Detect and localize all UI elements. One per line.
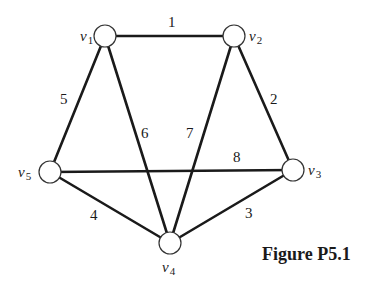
node-v1 [94,25,116,47]
node-v3 [282,159,304,181]
node-label-v5: v5 [18,164,32,182]
edge-weight-label: 4 [90,207,98,223]
edge-weight-label: 3 [245,205,253,221]
edge-weight-label: 1 [168,14,176,30]
edge-weight-label: 6 [141,125,149,141]
node-v2 [223,25,245,47]
edge-weight-label: 5 [60,91,68,107]
edge-v1-v4 [105,36,170,243]
figure-caption: Figure P5.1 [262,244,351,264]
edge-weight-label: 8 [233,149,241,165]
edge-v5-v1 [50,36,105,172]
edge-v2-v3 [234,36,293,170]
weighted-graph-diagram: 12345678 v1v2v3v4v5 Figure P5.1 [0,0,384,285]
node-label-v3: v3 [308,162,322,180]
node-label-v1: v1 [80,28,93,46]
edge-v5-v3 [50,170,293,172]
node-label-v2: v2 [249,28,262,46]
node-v5 [39,161,61,183]
node-label-v4: v4 [162,259,176,277]
nodes-group [39,25,304,254]
node-v4 [159,232,181,254]
edge-weight-label: 2 [270,91,278,107]
edge-weight-label: 7 [186,125,194,141]
edges-group [50,36,293,243]
